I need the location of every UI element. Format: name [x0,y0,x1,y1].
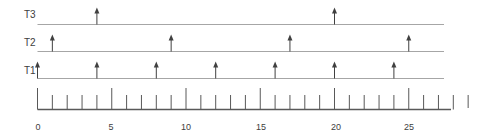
arrow-up-icon [213,62,218,68]
axis-label-10: 10 [181,123,191,132]
arrow-up-icon [94,8,99,14]
axis-label-20: 20 [331,123,341,132]
arrow-up-icon [50,35,55,41]
task-label-t1: T1 [24,66,36,76]
task-label-t2: T2 [24,38,36,48]
arrow-up-icon [287,35,292,41]
arrow-up-icon [154,62,159,68]
arrow-up-icon [332,8,337,14]
timeline-canvas [0,0,491,139]
arrow-up-icon [94,62,99,68]
axis-label-25: 25 [404,123,414,132]
arrow-up-icon [332,62,337,68]
arrow-up-icon [406,35,411,41]
arrow-up-icon [391,62,396,68]
task-timeline-diagram: T3 T2 T1 0 5 10 15 20 25 [0,0,491,139]
axis-label-15: 15 [256,123,266,132]
arrow-up-icon [169,35,174,41]
arrow-up-icon [273,62,278,68]
axis-label-5: 5 [108,123,113,132]
task-label-t3: T3 [24,10,36,20]
axis-label-0: 0 [35,123,40,132]
